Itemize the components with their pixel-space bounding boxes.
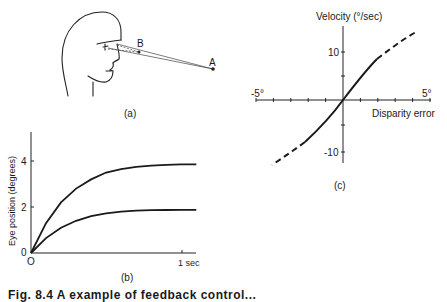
- chart-c-dashed-lower: [272, 142, 305, 165]
- sight-line-b: [117, 45, 139, 52]
- chart-b-upper-curve: [31, 164, 196, 253]
- chart-c-xtick-label-5: 5°: [422, 88, 432, 99]
- chart-b-xtick-label-0: O: [27, 256, 35, 267]
- chart-b-ytick-label-2: 2: [21, 202, 27, 213]
- chart-b-lower-curve: [31, 210, 196, 253]
- chart-b-ylabel: Eye position (degrees): [7, 156, 17, 246]
- point-b-label: B: [137, 38, 144, 49]
- nose-profile: [113, 44, 119, 63]
- chart-c-dashed-upper: [377, 32, 416, 59]
- mouth-chin: [88, 63, 113, 82]
- chart-c-xlabel: Disparity error: [372, 108, 435, 119]
- chart-c-ytick-label-10: 10: [328, 47, 340, 58]
- head-outline: [62, 12, 121, 96]
- point-b: [138, 51, 141, 54]
- chart-c-ytick-label-m10: -10: [324, 147, 339, 158]
- sight-line-upper: [117, 44, 213, 69]
- brow: [97, 40, 121, 44]
- chart-b-ytick-label-4: 4: [21, 156, 27, 167]
- sight-lines: [108, 44, 213, 69]
- chart-c-ylabel: Velocity (°/sec): [316, 11, 382, 22]
- panel-c-label: (c): [334, 180, 346, 191]
- sight-line-lower: [108, 48, 213, 69]
- chart-c: 10 -10 -5° 5° Disparity error Velocity (…: [251, 11, 435, 165]
- chart-b: 4 2 0 O 1 sec Eye position (degrees): [7, 132, 200, 268]
- point-a-label: A: [209, 57, 216, 68]
- panel-a-label: (a): [124, 108, 136, 119]
- head-diagram: [62, 12, 121, 96]
- panel-b-label: (b): [121, 272, 133, 283]
- eye-mark: [103, 44, 108, 50]
- chart-c-xtick-label-m5: -5°: [251, 88, 264, 99]
- chart-b-xtick-label-1: 1 sec: [178, 258, 200, 268]
- figure-caption: Fig. 8.4 A example of feedback control..…: [8, 288, 256, 302]
